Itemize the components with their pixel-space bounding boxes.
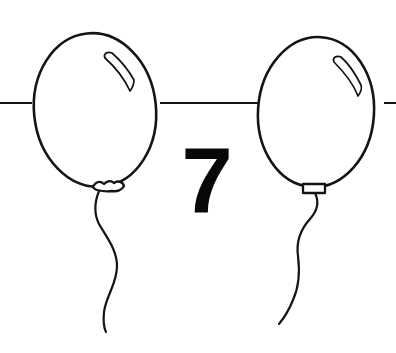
drawing-canvas: 7 Two balloons with number seven bbox=[0, 0, 396, 353]
right-balloon-knot bbox=[303, 184, 325, 193]
number-seven: 7 bbox=[181, 129, 232, 231]
left-balloon-knot bbox=[93, 181, 124, 191]
balloons-line-art: 7 bbox=[0, 0, 396, 353]
